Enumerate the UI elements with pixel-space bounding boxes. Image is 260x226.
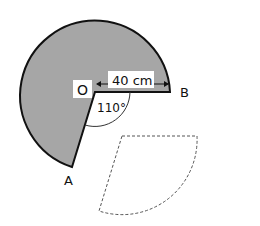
dashed-minor-sector (99, 136, 197, 215)
label-o: O (77, 82, 88, 98)
shaded-major-sector (20, 21, 170, 167)
label-a: A (64, 173, 73, 188)
sector-figure: O 40 cm 110° B A (0, 0, 260, 226)
angle-label: 110° (97, 101, 126, 115)
diagram: O 40 cm 110° B A (0, 0, 260, 226)
radius-label: 40 cm (112, 73, 153, 88)
label-b: B (180, 85, 189, 100)
